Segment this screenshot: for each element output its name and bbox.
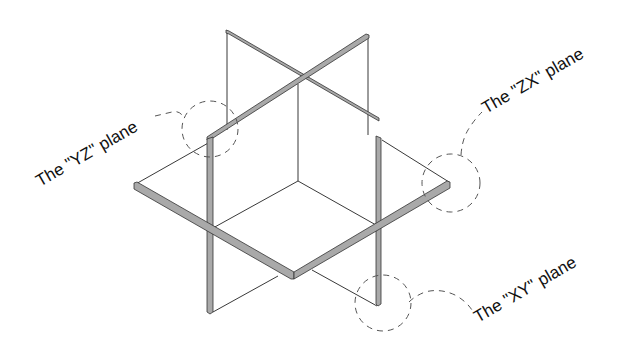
yz-plane-label: The "YZ" plane xyxy=(33,117,141,191)
labels: The "YZ" plane The "ZX" plane The "XY" p… xyxy=(33,44,587,327)
xy-inner-right-line xyxy=(298,181,376,225)
xy-inner-left-line xyxy=(213,181,298,228)
callouts xyxy=(155,101,482,331)
zx-plane-label: The "ZX" plane xyxy=(479,44,587,118)
zx-callout-circle xyxy=(422,154,480,212)
xy-back-left-edge-a xyxy=(134,142,210,185)
xy-callout-circle xyxy=(355,275,411,331)
plane-thick-edges xyxy=(134,30,450,314)
zx-bottom-edge xyxy=(312,270,377,306)
yz-bottom-edge xyxy=(213,276,278,312)
xy-back-right-edge xyxy=(382,140,449,182)
xy-leader-line xyxy=(409,291,472,310)
zx-leader-line xyxy=(461,112,482,155)
planes-diagram: The "YZ" plane The "ZX" plane The "XY" p… xyxy=(0,0,624,355)
xy-plane-label: The "XY" plane xyxy=(471,252,580,326)
xy-front-right-thick-edge xyxy=(294,181,450,279)
yz-top-thick-edge xyxy=(207,34,369,141)
yz-leader-line xyxy=(155,112,184,118)
plane-outlines xyxy=(134,32,449,312)
